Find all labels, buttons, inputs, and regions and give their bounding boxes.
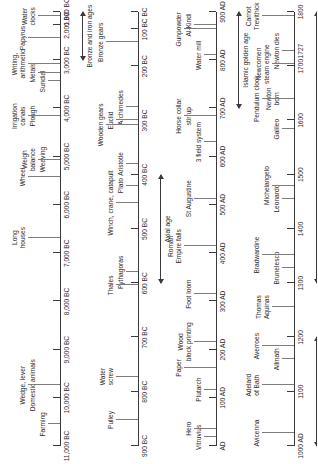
timeline-event-label: Wooden gears [97,103,104,146]
axis-tick-label: 11,000 BC [63,431,70,462]
axis-tick [209,252,216,253]
event-leader-line [262,254,294,255]
axis-tick-label: 300 AD [219,291,226,313]
axis-tick-label: 600 BC [141,272,148,294]
event-leader-line [204,141,216,142]
event-leader-line [116,284,138,285]
axis-tick [287,337,294,338]
event-leader-line [194,293,216,294]
event-leader-line [48,80,60,81]
axis-tick [53,11,60,12]
axis-tick [287,120,294,121]
timeline-event-label: Galileo [273,119,280,140]
event-leader-line [184,245,216,246]
event-leader-line [204,436,216,437]
axis-tick-label: 4,000 BC [63,95,70,123]
event-leader-line [272,185,294,186]
era-arrow-right-icon [314,11,318,16]
timeline-event-label: CarnotTrevithick [245,2,260,30]
event-leader-line [262,345,294,346]
event-leader-line [116,376,138,377]
axis-tick [53,349,60,350]
timeline-event-label: Avicenna [253,419,260,446]
timeline-event-label: Newcomensteam engine [255,44,270,84]
axis-tick [209,349,216,350]
timeline-event-label: Plough [29,106,36,127]
timeline-diagram: 11,000 BC10,000 BC9,000 BC8,000 BC7,000 … [0,0,317,464]
event-leader-line [184,367,216,368]
timeline-event-label: Newtonborn [265,88,280,110]
timeline-event-label: Woodblock printing [177,322,192,361]
axis-tick-label: 8,000 BC [63,288,70,316]
event-leader-line [48,423,60,424]
timeline-event-label: Water mill [195,41,202,70]
axis-tick [131,11,138,12]
timeline-axis [294,12,295,446]
axis-tick-label: 1100 [297,385,304,399]
event-leader-line [126,163,138,164]
axis-tick [53,59,60,60]
timeline-axis [60,12,61,446]
timeline-event-label: Wedge, lever [19,366,26,405]
timeline-event-label: Adelardof Bath [245,374,260,397]
axis-tick [131,337,138,338]
event-leader-line [38,72,60,73]
axis-tick [209,397,216,398]
event-leader-line [116,120,138,121]
event-leader-line [116,202,138,203]
event-leader-line [282,267,294,268]
axis-tick [131,445,138,446]
timeline-event-label: Al-Kindi [185,14,192,37]
axis-tick [53,24,60,25]
timeline-event-label: Paper [175,359,182,377]
timeline-event-label: Weaving [39,147,46,173]
era-arrow-left-icon [314,442,318,447]
axis-tick-label: 200 BC [141,55,148,77]
timeline-row-4: 1000 AD110012001300140015001600170017271… [234,0,306,464]
event-leader-line [28,115,60,116]
axis-tick-label: 3,000 BC [63,46,70,74]
axis-tick [209,156,216,157]
event-leader-line [282,198,294,199]
timeline-event-label: Longhouses [11,227,26,248]
axis-tick-label: 5,000 BC [63,143,70,171]
event-leader-line [126,185,138,186]
timeline-event-label: Pulley [107,411,114,429]
axis-tick-label: 300 BC [141,110,148,132]
timeline-event-label: Foot loom [185,279,192,308]
axis-tick-label: 1727 [297,44,304,59]
event-leader-line [38,159,60,160]
event-leader-line [28,37,60,38]
axis-tick [131,228,138,229]
timeline-event-label: RomanEmpire falls [167,229,182,263]
axis-tick-label: 9,000 BC [63,336,70,364]
event-leader-line [282,358,294,359]
axis-tick-label: AD [219,441,226,450]
timeline-event-label: ThomasAquinas [255,295,270,319]
timeline-event-label: Weighbalance [21,148,36,171]
axis-tick [131,174,138,175]
era-band [316,338,317,447]
axis-tick-label: BC [141,7,148,16]
event-leader-line [194,341,216,342]
timeline-event-label: Aristotle [117,152,124,176]
event-leader-line [262,432,294,433]
event-leader-line [126,271,138,272]
axis-tick-label: 700 AD [219,98,226,120]
event-leader-line [126,106,138,107]
timeline-event-label: Waterclocks [21,7,36,25]
axis-tick-label: 500 BC [141,218,148,240]
axis-tick-label: 1600 [297,113,304,128]
axis-tick-label: 6,000 BC [63,191,70,219]
event-leader-line [204,389,216,390]
event-leader-line [204,54,216,55]
timeline-row-3: AD100 AD200 AD300 AD400 AD500 AD600 AD70… [156,0,228,464]
timeline-event-label: Allmath [273,348,280,370]
axis-tick [131,65,138,66]
axis-tick [287,391,294,392]
axis-tick-label: 200 AD [219,339,226,361]
axis-tick-label: 1200 [297,330,304,345]
axis-tick-label: 1000 AD [297,433,304,458]
event-leader-line [28,176,60,177]
axis-tick [53,397,60,398]
